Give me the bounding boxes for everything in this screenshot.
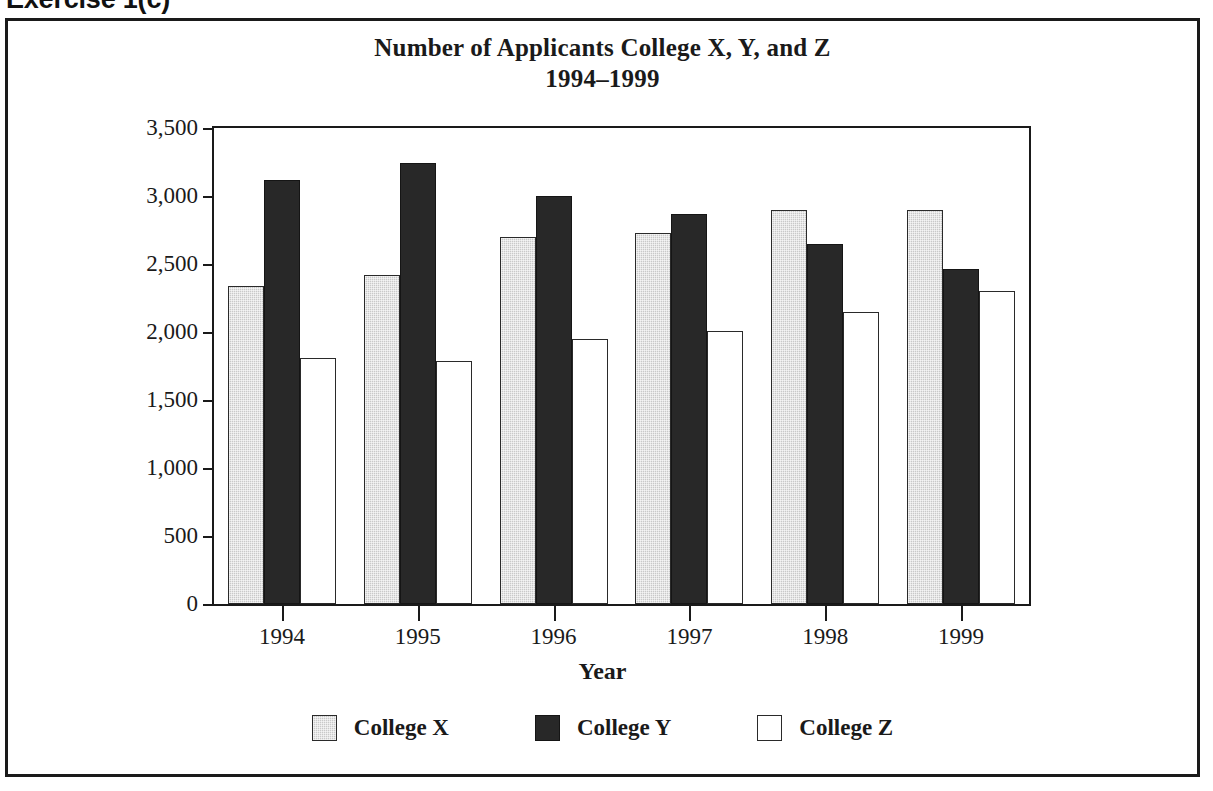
legend-item-college-x[interactable]: College X bbox=[312, 715, 449, 741]
bar-1997-college-y bbox=[671, 214, 707, 604]
bar-1994-college-y bbox=[264, 180, 300, 604]
legend-swatch-icon bbox=[312, 715, 337, 741]
legend-label: College Y bbox=[577, 715, 671, 741]
exercise-heading: Exercise 1(c) bbox=[6, 0, 170, 15]
x-axis-tick-label: 1998 bbox=[802, 624, 848, 650]
y-axis-tick bbox=[203, 332, 214, 334]
legend-item-college-z[interactable]: College Z bbox=[757, 715, 893, 741]
y-axis-tick bbox=[203, 536, 214, 538]
legend-item-college-y[interactable]: College Y bbox=[535, 715, 671, 741]
chart-title: Number of Applicants College X, Y, and Z… bbox=[8, 33, 1197, 95]
x-axis-tick bbox=[825, 604, 827, 621]
bar-1998-college-x bbox=[771, 210, 807, 604]
y-axis-tick-label: 2,500 bbox=[146, 251, 198, 277]
bar-1997-college-x bbox=[635, 233, 671, 604]
y-axis-tick-label: 1,000 bbox=[146, 455, 198, 481]
chart-title-subtitle: 1994–1999 bbox=[8, 63, 1197, 95]
bar-1994-college-x bbox=[228, 286, 264, 604]
plot-area: 05001,0001,5002,0002,5003,0003,500 19941… bbox=[212, 126, 1031, 606]
bar-1999-college-x bbox=[907, 210, 943, 604]
x-axis-tick-label: 1997 bbox=[666, 624, 712, 650]
y-axis-tick-label: 2,000 bbox=[146, 319, 198, 345]
x-axis-title: Year bbox=[8, 658, 1197, 685]
x-axis-tick bbox=[418, 604, 420, 621]
chart-legend: College XCollege YCollege Z bbox=[8, 715, 1197, 741]
y-axis-tick-label: 0 bbox=[187, 591, 199, 617]
x-axis-tick-label: 1994 bbox=[259, 624, 305, 650]
bar-1995-college-x bbox=[364, 275, 400, 604]
x-axis-tick bbox=[961, 604, 963, 621]
y-axis-tick bbox=[203, 400, 214, 402]
x-axis-tick-label: 1996 bbox=[531, 624, 577, 650]
bar-1995-college-z bbox=[436, 361, 472, 604]
bar-1994-college-z bbox=[300, 358, 336, 604]
bar-1998-college-z bbox=[843, 312, 879, 604]
bar-1995-college-y bbox=[400, 163, 436, 604]
y-axis-tick bbox=[203, 264, 214, 266]
legend-label: College X bbox=[354, 715, 449, 741]
bar-1997-college-z bbox=[707, 331, 743, 604]
figure-frame: Number of Applicants College X, Y, and Z… bbox=[5, 18, 1200, 777]
chart-title-main: Number of Applicants College X, Y, and Z bbox=[8, 33, 1197, 63]
legend-swatch-icon bbox=[757, 715, 782, 741]
y-axis-tick bbox=[203, 196, 214, 198]
y-axis-tick-label: 1,500 bbox=[146, 387, 198, 413]
y-axis-tick bbox=[203, 604, 214, 606]
bar-1999-college-z bbox=[979, 291, 1015, 604]
x-axis-tick bbox=[282, 604, 284, 621]
y-axis-tick bbox=[203, 468, 214, 470]
y-axis-tick-label: 3,500 bbox=[146, 115, 198, 141]
x-axis-tick bbox=[689, 604, 691, 621]
bar-1996-college-z bbox=[572, 339, 608, 604]
x-axis-tick-label: 1995 bbox=[395, 624, 441, 650]
y-axis-tick bbox=[203, 128, 214, 130]
bar-1996-college-y bbox=[536, 196, 572, 604]
legend-swatch-icon bbox=[535, 715, 560, 741]
bar-1998-college-y bbox=[807, 244, 843, 604]
x-axis-tick bbox=[554, 604, 556, 621]
bar-1996-college-x bbox=[500, 237, 536, 604]
legend-label: College Z bbox=[799, 715, 893, 741]
x-axis-tick-label: 1999 bbox=[938, 624, 984, 650]
y-axis-tick-label: 3,000 bbox=[146, 183, 198, 209]
bar-1999-college-y bbox=[943, 269, 979, 604]
y-axis-tick-label: 500 bbox=[164, 523, 199, 549]
